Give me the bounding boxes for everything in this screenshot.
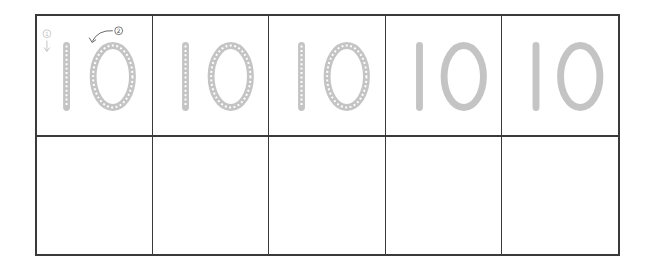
digit-10-solid-glyph	[502, 16, 618, 135]
svg-text:2: 2	[117, 28, 121, 34]
blank-practice-cell-2[interactable]	[153, 137, 269, 254]
digit-10-dotted-glyph: 1 2	[37, 16, 152, 135]
blank-practice-cell-5[interactable]	[502, 137, 618, 254]
trace-cell-2	[153, 16, 269, 137]
trace-cell-4	[386, 16, 502, 137]
trace-cell-5	[502, 16, 618, 137]
svg-text:1: 1	[45, 31, 49, 37]
trace-cell-1: 1 2	[37, 16, 153, 137]
digit-10-solid-glyph	[386, 16, 501, 135]
digit-10-dotted-glyph	[269, 16, 384, 135]
blank-practice-cell-1[interactable]	[37, 137, 153, 254]
blank-practice-cell-4[interactable]	[386, 137, 502, 254]
digit-10-dotted-glyph	[153, 16, 268, 135]
tracing-grid: 1 2	[35, 14, 620, 256]
trace-cell-3	[269, 16, 385, 137]
blank-practice-cell-3[interactable]	[269, 137, 385, 254]
